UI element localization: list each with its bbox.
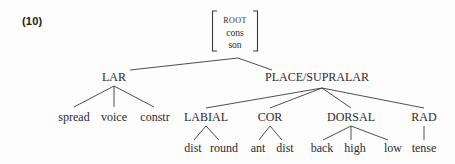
- branch-dorsal-to-low: [351, 126, 388, 140]
- node-dorsal[interactable]: DORSAL: [327, 110, 375, 124]
- branch-root-to-place: [238, 58, 272, 70]
- leaf-labial-round[interactable]: round: [210, 141, 238, 155]
- branch-place-to-rad: [322, 88, 424, 108]
- leaf-cor-ant[interactable]: ant: [251, 141, 266, 155]
- leaf-rad-tense[interactable]: tense: [412, 141, 437, 155]
- branch-place-to-cor: [270, 88, 322, 108]
- root-branches: [130, 58, 272, 70]
- leaf-spread[interactable]: spread: [58, 110, 89, 124]
- lar-branches: [74, 86, 154, 107]
- matrix-feature-root: ROOT: [223, 16, 246, 25]
- branch-dorsal-to-back: [323, 126, 351, 140]
- node-lar[interactable]: LAR: [102, 70, 126, 84]
- dorsal-branches: [323, 126, 388, 140]
- leaf-cor-dist[interactable]: dist: [276, 141, 294, 155]
- leaf-dorsal-high[interactable]: high: [344, 141, 365, 155]
- leaf-voice[interactable]: voice: [101, 110, 127, 124]
- node-labial[interactable]: LABIAL: [184, 110, 228, 124]
- labial-branches: [194, 126, 219, 140]
- root-matrix: ROOT cons son: [213, 11, 258, 51]
- leaf-dorsal-low[interactable]: low: [384, 141, 402, 155]
- branch-labial-to-dist: [194, 126, 206, 140]
- branch-cor-to-ant: [259, 126, 270, 140]
- leaf-labial-dist[interactable]: dist: [184, 141, 202, 155]
- tree-diagram: ROOT cons son LAR spread voice constr PL…: [0, 0, 455, 164]
- leaf-constr[interactable]: constr: [140, 110, 169, 124]
- branch-lar-to-spread: [74, 86, 114, 107]
- branch-cor-to-dist: [270, 126, 282, 140]
- lar-leaves: spread voice constr: [58, 110, 169, 124]
- matrix-feature-cons: cons: [226, 28, 244, 38]
- node-rad[interactable]: RAD: [411, 110, 437, 124]
- figure-canvas: (10) ROOT cons son LAR spread voice cons…: [0, 0, 455, 164]
- branch-place-to-labial: [206, 88, 322, 108]
- branch-root-to-lar: [130, 58, 238, 70]
- bracket-left: [213, 11, 218, 51]
- cor-branches: [259, 126, 282, 140]
- branch-lar-to-constr: [114, 86, 154, 107]
- leaf-dorsal-back[interactable]: back: [311, 141, 334, 155]
- node-cor[interactable]: COR: [258, 110, 283, 124]
- node-place-supralar[interactable]: PLACE/SUPRALAR: [265, 70, 369, 84]
- bracket-right: [253, 11, 258, 51]
- matrix-feature-son: son: [228, 40, 241, 50]
- branch-labial-to-round: [206, 126, 219, 140]
- place-branches: [206, 88, 424, 108]
